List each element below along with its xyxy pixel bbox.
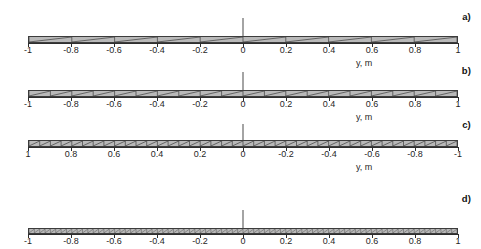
axis-tick-label: 0.6 [366, 45, 379, 56]
axis-tick-label: 0.4 [323, 99, 336, 110]
mesh-strip [28, 36, 458, 43]
axis-tick-label: 0 [240, 149, 245, 160]
axis-tick-label: 0 [240, 236, 245, 247]
axis-tick-label: 0.8 [409, 99, 422, 110]
mesh-strip [28, 140, 458, 147]
axis-tick-label: -1 [454, 149, 462, 160]
axis-tick-label: -0.2 [192, 45, 208, 56]
panel-d: d)-1-0.8-0.6-0.4-0.200.20.40.60.81y, m [0, 180, 481, 234]
axis-tick-label: -0.8 [407, 149, 423, 160]
axis-tick-label: -0.4 [149, 99, 165, 110]
axis-tick-label: 1 [455, 45, 460, 56]
axis-caption: y, m [356, 162, 372, 173]
axis-tick-label: -0.2 [192, 99, 208, 110]
panel-a: a)-1-0.8-0.6-0.4-0.200.20.40.60.81y, m [0, 8, 481, 62]
axis-tick-label: 0.8 [409, 45, 422, 56]
axis-tick-label: -0.2 [278, 149, 294, 160]
axis-tick-label: -0.6 [106, 99, 122, 110]
beam-strip-wrapper [28, 90, 458, 97]
axis-tick-label: -0.2 [192, 236, 208, 247]
figure-canvas: a)-1-0.8-0.6-0.4-0.200.20.40.60.81y, mb)… [0, 0, 481, 249]
axis-tick-label: 0.2 [194, 149, 207, 160]
axis-tick-label: 1 [455, 99, 460, 110]
axis-tick-label: -0.8 [63, 236, 79, 247]
axis-tick-label: 0 [240, 99, 245, 110]
beam-strip-wrapper [28, 140, 458, 147]
axis-tick-label: 0.6 [366, 236, 379, 247]
panel-letter: c) [462, 120, 471, 130]
axis-tick-label: -0.6 [106, 236, 122, 247]
x-axis-tick-labels: 10.80.60.40.20-0.2-0.4-0.6-0.8-1 [0, 149, 481, 161]
axis-tick-label: 1 [455, 236, 460, 247]
x-axis-tick-labels: -1-0.8-0.6-0.4-0.200.20.40.60.81 [0, 236, 481, 248]
axis-tick-label: 0.2 [280, 45, 293, 56]
center-origin-marker [243, 124, 244, 140]
axis-tick-label: 0.4 [323, 236, 336, 247]
center-origin-marker [243, 72, 244, 90]
axis-tick-label: 0.6 [366, 99, 379, 110]
axis-tick-label: -0.6 [364, 149, 380, 160]
x-axis-line [28, 147, 458, 148]
axis-tick-label: -0.8 [63, 45, 79, 56]
axis-tick-label: -1 [24, 45, 32, 56]
axis-tick-label: 1 [25, 149, 30, 160]
axis-tick-label: 0.8 [409, 236, 422, 247]
x-axis-line [28, 43, 458, 44]
panel-b: b)-1-0.8-0.6-0.4-0.200.20.40.60.81y, m [0, 62, 481, 116]
axis-tick-label: 0.8 [65, 149, 78, 160]
axis-tick-label: -1 [24, 99, 32, 110]
beam-strip-wrapper [28, 36, 458, 43]
axis-tick-label: -0.4 [149, 45, 165, 56]
axis-tick-label: 0.4 [323, 45, 336, 56]
panel-letter: a) [462, 12, 471, 22]
x-axis-tick-labels: -1-0.8-0.6-0.4-0.200.20.40.60.81 [0, 99, 481, 111]
axis-tick-label: 0.2 [280, 99, 293, 110]
axis-tick-label: -1 [24, 236, 32, 247]
axis-tick-label: 0.4 [151, 149, 164, 160]
axis-tick-label: -0.4 [149, 236, 165, 247]
axis-tick-label: -0.6 [106, 45, 122, 56]
panel-letter: b) [462, 66, 471, 76]
axis-tick-label: 0.2 [280, 236, 293, 247]
center-origin-marker [243, 18, 244, 36]
panel-c: c)10.80.60.40.20-0.2-0.4-0.6-0.8-1y, m [0, 116, 481, 170]
x-axis-tick-labels: -1-0.8-0.6-0.4-0.200.20.40.60.81 [0, 45, 481, 57]
x-axis-line [28, 97, 458, 98]
axis-tick-label: -0.4 [321, 149, 337, 160]
axis-tick-label: -0.8 [63, 99, 79, 110]
axis-tick-label: 0 [240, 45, 245, 56]
axis-tick-label: 0.6 [108, 149, 121, 160]
panel-letter: d) [462, 194, 471, 204]
center-origin-marker [243, 210, 244, 228]
mesh-strip [28, 90, 458, 97]
x-axis-line [28, 234, 458, 235]
